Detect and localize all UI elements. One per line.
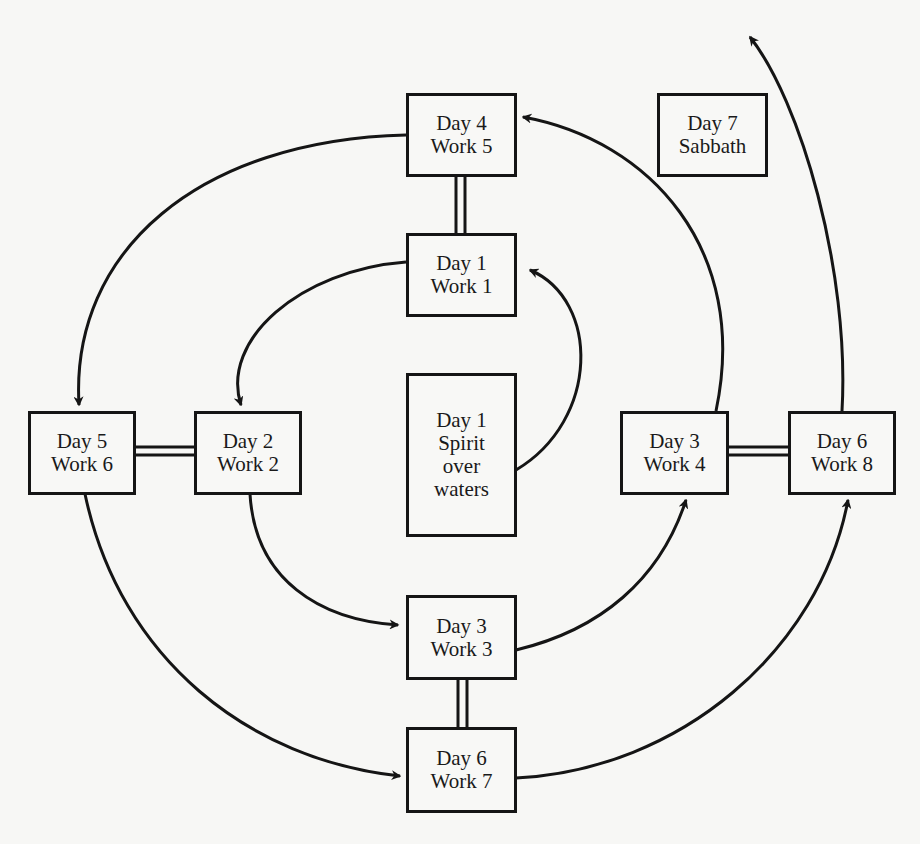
node-line: Work 6 — [51, 453, 113, 476]
node-line: Work 4 — [644, 453, 706, 476]
arrow-d5w6-to-d6w7 — [85, 494, 400, 776]
node-line: Day 4 — [436, 112, 487, 135]
node-line: Work 2 — [217, 453, 279, 476]
double-link-d5-d2 — [135, 447, 194, 455]
node-line: Day 3 — [436, 615, 487, 638]
node-line: Day 1 — [436, 409, 487, 432]
node-line: Work 5 — [431, 135, 493, 158]
node-line: Day 3 — [649, 430, 700, 453]
node-day6-work8: Day 6 Work 8 — [788, 411, 896, 495]
node-line: Work 7 — [431, 770, 493, 793]
node-day2-work2: Day 2 Work 2 — [194, 411, 302, 495]
node-line: Sabbath — [679, 135, 747, 158]
node-day7-sabbath: Day 7 Sabbath — [657, 93, 768, 177]
node-line: Work 3 — [431, 638, 493, 661]
node-line: Day 1 — [436, 252, 487, 275]
node-line: Day 5 — [57, 430, 108, 453]
arrow-d6w7-to-d6w8 — [516, 500, 848, 778]
node-day3-work3: Day 3 Work 3 — [406, 595, 517, 680]
node-line: Day 6 — [817, 430, 868, 453]
node-day5-work6: Day 5 Work 6 — [28, 411, 136, 495]
node-day3-work4: Day 3 Work 4 — [620, 411, 729, 495]
node-day4-work5: Day 4 Work 5 — [406, 93, 517, 177]
double-link-d3w3-d6w7 — [458, 679, 467, 727]
arrow-d1w1-to-d2w2 — [238, 262, 406, 405]
node-line: Work 8 — [811, 453, 873, 476]
node-line: over — [443, 455, 480, 478]
node-line: Day 7 — [687, 112, 738, 135]
node-day1-work1: Day 1 Work 1 — [406, 233, 517, 317]
double-link-d3w4-d6w8 — [728, 447, 788, 455]
node-line: waters — [434, 478, 489, 501]
node-line: Day 2 — [223, 430, 274, 453]
double-link-d4-d1 — [456, 176, 465, 233]
arrow-d3w3-to-d3w4 — [516, 500, 686, 650]
node-line: Day 6 — [436, 747, 487, 770]
node-line: Work 1 — [431, 275, 493, 298]
node-day1-spirit: Day 1 Spirit over waters — [406, 373, 517, 537]
arrow-spirit-to-d1w1 — [516, 270, 581, 470]
node-day6-work7: Day 6 Work 7 — [406, 727, 517, 813]
node-line: Spirit — [438, 432, 485, 455]
arrow-d2w2-to-d3w3 — [250, 494, 398, 625]
